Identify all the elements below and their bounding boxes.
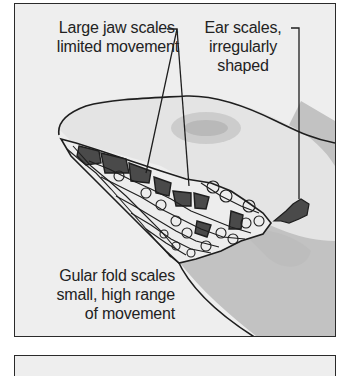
ear-label-line1: Ear scales, xyxy=(193,18,293,37)
ear-label-line2: irregularly xyxy=(193,37,293,56)
gular-label-line3: of movement xyxy=(21,304,175,323)
jaw-label-line1: Large jaw scales, xyxy=(31,18,179,37)
gular-scales-label: Gular fold scales small, high range of m… xyxy=(21,266,175,323)
next-panel-edge xyxy=(14,355,336,376)
gular-label-line1: Gular fold scales xyxy=(21,266,175,285)
jaw-label-line2: limited movement xyxy=(31,37,179,56)
ear-label-line3: shaped xyxy=(193,56,293,75)
diagram-panel: Large jaw scales, limited movement Ear s… xyxy=(14,3,336,337)
jaw-scales-label: Large jaw scales, limited movement xyxy=(31,18,179,56)
gular-label-line2: small, high range xyxy=(21,285,175,304)
ear-scales-label: Ear scales, irregularly shaped xyxy=(193,18,293,75)
